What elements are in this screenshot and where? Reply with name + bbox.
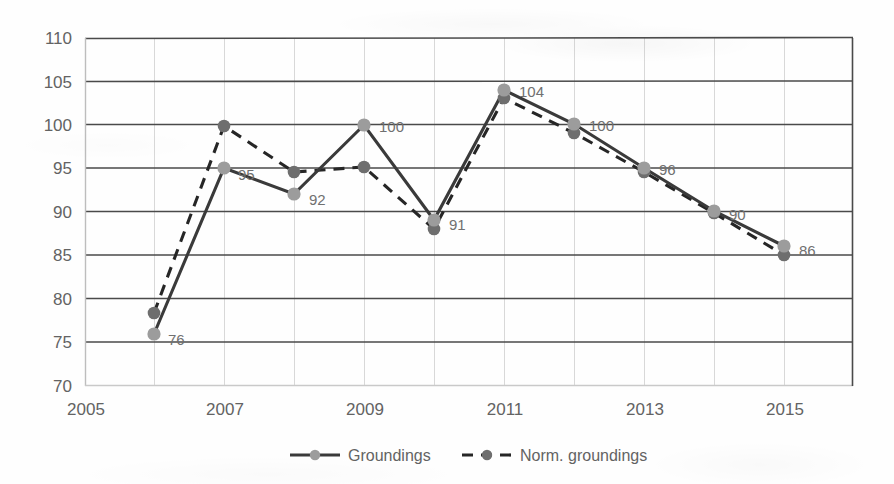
y-tick-85: 85	[53, 246, 72, 265]
data-point-groundings-2015	[777, 239, 790, 252]
chart-legend: Groundings Norm. groundings	[290, 447, 647, 464]
data-point-groundings-2006	[147, 327, 160, 340]
data-label-2014: 90	[729, 206, 746, 223]
y-tick-70: 70	[53, 377, 72, 396]
data-point-groundings-2010	[427, 213, 440, 226]
y-tick-80: 80	[53, 290, 72, 309]
x-tick-2007: 2007	[206, 400, 244, 419]
legend-item-norm-groundings[interactable]: Norm. groundings	[462, 447, 647, 464]
data-point-norm-2008	[288, 166, 301, 179]
y-tick-100: 100	[44, 116, 72, 135]
data-label-2010: 91	[449, 216, 466, 233]
data-label-2013: 96	[659, 161, 676, 178]
data-point-norm-2006	[148, 307, 161, 320]
data-label-2008: 92	[309, 191, 326, 208]
series-markers-norm-groundings	[148, 92, 791, 320]
data-point-groundings-2013	[637, 161, 650, 174]
series-line-norm-groundings	[154, 98, 784, 313]
x-axis-tick-labels: 2005 2007 2009 2011 2013 2015	[67, 400, 804, 419]
x-tick-2009: 2009	[346, 400, 384, 419]
y-tick-75: 75	[53, 333, 72, 352]
gridline-y-110	[85, 38, 853, 39]
data-point-groundings-2009	[357, 118, 370, 131]
y-tick-90: 90	[53, 203, 72, 222]
data-point-groundings-2011	[497, 83, 510, 96]
y-axis-tick-labels: 110 105 100 95 90 85 80 75 70	[44, 29, 72, 396]
y-tick-105: 105	[44, 73, 72, 92]
x-tick-2013: 2013	[626, 400, 664, 419]
legend-item-groundings[interactable]: Groundings	[290, 447, 431, 464]
data-point-groundings-2014	[707, 204, 720, 217]
legend-label-groundings: Groundings	[348, 447, 431, 464]
data-point-groundings-2012	[567, 117, 580, 130]
x-tick-2005: 2005	[67, 400, 105, 419]
x-tick-2015: 2015	[766, 400, 804, 419]
legend-marker-norm-groundings-icon	[482, 450, 492, 460]
gridline-y-105	[85, 81, 853, 82]
y-tick-95: 95	[53, 159, 72, 178]
chart-container: 76 95 92 100 91 104 100 96 90 86 110 105…	[0, 0, 894, 484]
data-label-2015: 86	[799, 242, 816, 259]
data-point-groundings-2008	[287, 187, 300, 200]
data-point-groundings-2007	[217, 161, 230, 174]
data-point-norm-2009	[358, 161, 371, 174]
legend-marker-groundings-icon	[310, 450, 320, 460]
x-tick-2011: 2011	[487, 400, 524, 419]
data-label-2012: 100	[589, 117, 614, 134]
legend-label-norm-groundings: Norm. groundings	[520, 447, 647, 464]
horizontal-gridlines	[85, 38, 853, 343]
line-chart: 76 95 92 100 91 104 100 96 90 86 110 105…	[0, 0, 894, 484]
y-tick-110: 110	[45, 29, 72, 48]
data-label-2009: 100	[379, 118, 404, 135]
data-label-2006: 76	[168, 331, 185, 348]
data-label-2011: 104	[519, 83, 544, 100]
data-point-norm-2007	[218, 120, 231, 133]
data-label-2007: 95	[238, 166, 255, 183]
